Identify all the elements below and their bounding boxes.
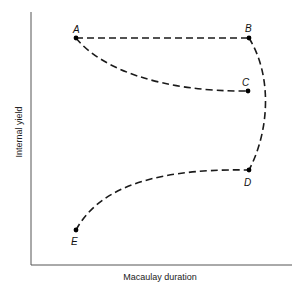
x-axis-label: Macaulay duration: [123, 272, 197, 282]
curves: [76, 38, 266, 230]
point-e-label: E: [71, 236, 78, 247]
point-a-marker: [74, 36, 79, 41]
point-d-label: D: [244, 177, 251, 188]
y-axis-label: Internal yield: [14, 106, 24, 157]
point-a-label: A: [72, 24, 80, 35]
axes: [31, 12, 292, 265]
point-c-label: C: [242, 77, 250, 88]
curve-a-c: [76, 38, 248, 91]
point-c-marker: [246, 89, 251, 94]
point-b-marker: [247, 36, 252, 41]
point-b-label: B: [245, 23, 252, 34]
yield-duration-diagram: A B C D E Macaulay duration Internal yie…: [0, 0, 307, 291]
curve-e-d: [76, 170, 249, 230]
curve-b-d: [249, 38, 266, 170]
point-d-marker: [247, 168, 252, 173]
point-e-marker: [74, 228, 79, 233]
